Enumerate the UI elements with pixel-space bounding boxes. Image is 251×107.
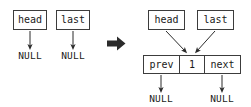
- after-last-pointer-label: last: [203, 15, 227, 25]
- list-node: prev 1 next: [143, 55, 241, 74]
- before-head-pointer-label: head: [18, 15, 42, 25]
- after-next-null-label: NULL: [205, 94, 239, 104]
- node-prev-cell: prev: [144, 56, 179, 73]
- node-prev-label: prev: [149, 60, 173, 70]
- node-data-label: 1: [189, 60, 195, 70]
- after-head-pointer-box: head: [148, 10, 185, 30]
- before-last-pointer-label: last: [61, 15, 85, 25]
- before-last-pointer-box: last: [56, 10, 90, 30]
- before-last-null-label: NULL: [56, 51, 90, 61]
- node-data-cell: 1: [179, 56, 204, 73]
- after-last-pointer-box: last: [197, 10, 234, 30]
- after-head-pointer-label: head: [154, 15, 178, 25]
- node-next-cell: next: [204, 56, 240, 73]
- after-prev-null-label: NULL: [144, 94, 178, 104]
- transition-arrow-icon: [107, 36, 126, 51]
- linked-list-diagram: head last NULL NULL head last prev 1 nex…: [0, 0, 251, 107]
- node-next-label: next: [210, 60, 234, 70]
- after-head-to-node-arrow: [166, 31, 185, 51]
- after-last-to-node-arrow: [197, 31, 215, 51]
- before-head-pointer-box: head: [13, 10, 47, 30]
- before-head-null-label: NULL: [13, 51, 47, 61]
